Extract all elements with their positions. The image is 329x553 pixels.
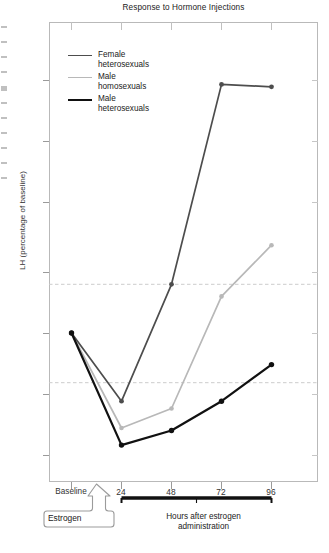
x-axis-bracket: [122, 498, 272, 503]
estrogen-callout-shape: [44, 484, 114, 527]
chart-page: Response to Hormone Injections LH (perce…: [0, 0, 329, 553]
x-axis-ticks-top: [72, 22, 272, 30]
y-axis-ticks-right: [312, 81, 318, 456]
y-axis-ticks: [43, 81, 49, 456]
series-male-homosexuals: [69, 243, 274, 430]
series-female-heterosexuals: [69, 82, 274, 404]
series-male-heterosexuals: [69, 330, 274, 448]
chart-vector-layer: [0, 0, 329, 553]
